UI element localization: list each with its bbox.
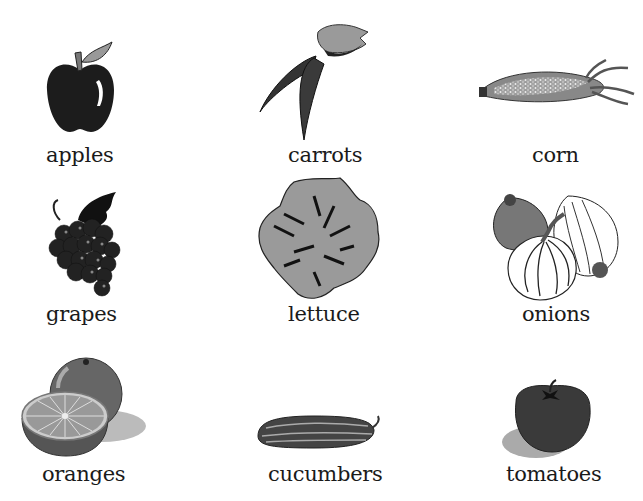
lettuce-icon: [254, 176, 384, 304]
item-label: cucumbers: [268, 462, 382, 486]
item-label: onions: [522, 302, 590, 326]
onion-icon: [488, 192, 628, 304]
grapes-icon: [44, 190, 124, 300]
apple-icon: [44, 40, 116, 138]
item-label: tomatoes: [506, 462, 601, 486]
item-label: apples: [46, 143, 114, 167]
item-label: lettuce: [288, 302, 360, 326]
item-label: carrots: [288, 143, 362, 167]
tomato-icon: [500, 378, 600, 460]
carrot-icon: [256, 22, 376, 142]
item-label: grapes: [46, 302, 117, 326]
item-label: oranges: [42, 462, 125, 486]
corn-icon: [478, 58, 638, 114]
cucumber-icon: [254, 410, 384, 454]
item-label: corn: [532, 143, 579, 167]
orange-icon: [20, 354, 150, 458]
